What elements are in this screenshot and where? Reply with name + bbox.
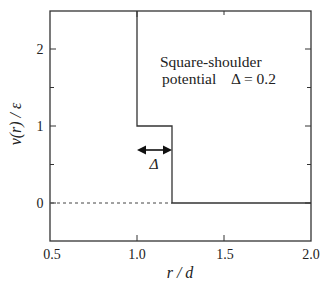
potential-curve — [137, 11, 311, 203]
x-axis-label: r / d — [167, 264, 195, 281]
chart: 2 1 0 0.5 1.0 1.5 2.0 r / d v(r) / ε Δ S… — [0, 0, 328, 285]
annotation-line1: Square-shoulder — [160, 53, 262, 70]
x-tick-label: 0.5 — [43, 247, 61, 262]
y-axis-label: v(r) / ε — [7, 102, 25, 145]
delta-double-arrow — [137, 146, 172, 155]
y-tick-label: 0 — [37, 196, 44, 211]
x-tick-label: 1.0 — [128, 247, 146, 262]
annotation-line2: potential — [162, 70, 216, 87]
delta-arrow-label: Δ — [148, 155, 158, 172]
y-tick-label: 2 — [37, 42, 44, 57]
x-tick-label: 2.0 — [302, 247, 320, 262]
annotation-param: Δ = 0.2 — [231, 70, 276, 87]
y-tick-label: 1 — [37, 119, 44, 134]
x-tick-label: 1.5 — [216, 247, 234, 262]
plot-frame — [50, 11, 311, 241]
